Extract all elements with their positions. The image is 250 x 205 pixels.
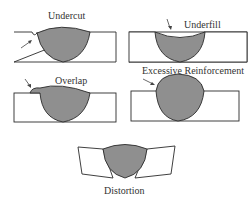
panel-distortion	[78, 145, 175, 179]
overlap-arrowhead	[27, 84, 31, 88]
underfill-arrowhead	[168, 26, 172, 30]
panel-excessive-reinforcement	[131, 74, 239, 121]
label-distortion: Distortion	[104, 186, 145, 196]
panel-undercut	[14, 27, 116, 62]
undercut-arrowhead	[28, 40, 32, 44]
label-undercut: Undercut	[48, 11, 85, 21]
label-overlap: Overlap	[55, 76, 87, 86]
weld-defects-diagram	[0, 0, 250, 205]
label-underfill: Underfill	[184, 20, 221, 30]
label-excessive-reinforcement: Excessive Reinforcement	[142, 66, 244, 76]
